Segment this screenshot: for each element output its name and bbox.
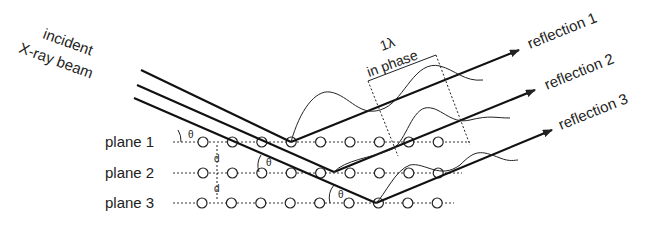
atom-plane3-3 — [256, 198, 266, 208]
reflection-label-2: reflection 2 — [542, 50, 616, 93]
atom-plane1-9 — [433, 137, 443, 147]
atom-plane1-7 — [374, 137, 384, 147]
atom-plane2-6 — [345, 168, 355, 178]
atom-plane1-6 — [345, 137, 355, 147]
atom-plane2-4 — [286, 168, 296, 178]
angle-arc-3 — [329, 185, 334, 203]
angle-theta-2: θ — [266, 157, 272, 168]
wavelength-label: 1λ — [378, 34, 397, 54]
phase-label: in phase — [365, 47, 420, 80]
spacing-d-1: d — [214, 153, 220, 164]
plane-label-2: plane 2 — [105, 164, 154, 181]
atom-plane2-7 — [374, 168, 384, 178]
reflected-beam-3 — [376, 130, 552, 203]
atom-plane2-8 — [404, 168, 414, 178]
reflection-label-1: reflection 1 — [525, 9, 599, 52]
angle-theta-3: θ — [338, 189, 344, 200]
angle-theta-1: θ — [188, 129, 194, 140]
angle-arc-1 — [178, 130, 181, 142]
phase-guide-right — [436, 55, 470, 145]
wave-3 — [376, 153, 518, 203]
bragg-diagram: incident X-ray beam plane 1 plane 2 plan… — [0, 0, 659, 225]
atoms — [197, 137, 443, 208]
atom-plane3-4 — [285, 198, 295, 208]
atom-plane3-2 — [226, 198, 236, 208]
plane-label-1: plane 1 — [105, 133, 154, 150]
plane-label-3: plane 3 — [105, 194, 154, 211]
atom-plane3-1 — [197, 198, 207, 208]
incident-beam-3 — [134, 98, 376, 203]
incident-beam-2 — [137, 85, 334, 172]
atom-plane3-9 — [432, 198, 442, 208]
atom-plane2-2 — [227, 168, 237, 178]
spacing-d-2: d — [214, 183, 220, 194]
atom-plane3-8 — [403, 198, 413, 208]
reflection-label-3: reflection 3 — [556, 90, 630, 133]
atom-plane2-1 — [198, 168, 208, 178]
incident-beam-1 — [141, 70, 291, 142]
atom-plane3-6 — [344, 198, 354, 208]
atom-plane3-5 — [315, 198, 325, 208]
atom-plane1-1 — [198, 137, 208, 147]
atom-plane1-5 — [316, 137, 326, 147]
